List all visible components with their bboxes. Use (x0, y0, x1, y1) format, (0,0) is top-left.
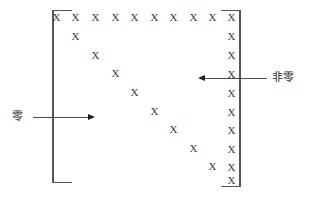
matrix-cell-marker: X (188, 143, 199, 154)
matrix-cell-marker: X (90, 12, 101, 23)
matrix-cell-marker: X (168, 12, 179, 23)
matrix-cell-marker: X (110, 12, 121, 23)
matrix-cell-marker: X (168, 124, 179, 135)
matrix-cell-marker: X (149, 12, 160, 23)
matrix-cell-marker: X (70, 12, 81, 23)
nonzero-arrow-line (205, 78, 267, 79)
nonzero-arrow-head-icon (198, 75, 205, 81)
matrix-cell-marker: X (207, 161, 218, 172)
matrix-cell-marker: X (110, 68, 121, 79)
matrix-cell-marker: X (70, 31, 81, 42)
matrix-cell-marker: X (226, 88, 237, 99)
matrix-cell-marker: X (129, 87, 140, 98)
matrix-cell-marker: X (226, 12, 237, 23)
zero-arrow-head-icon (88, 114, 95, 120)
matrix-cell-marker: X (226, 144, 237, 155)
zero-label: 零 (12, 111, 23, 123)
matrix-cell-marker: X (226, 50, 237, 61)
nonzero-label: 非零 (272, 72, 294, 84)
matrix-cell-marker: X (226, 31, 237, 42)
matrix-left-bracket (52, 10, 72, 183)
matrix-cell-marker: X (51, 12, 62, 23)
matrix-cell-marker: X (226, 175, 237, 186)
matrix-cell-marker: X (226, 107, 237, 118)
matrix-cell-marker: X (149, 106, 160, 117)
matrix-cell-marker: X (207, 12, 218, 23)
matrix-cell-marker: X (129, 12, 140, 23)
matrix-cell-marker: X (90, 50, 101, 61)
matrix-diagram: XXXXXXXXXXXXXXXXXXXXXXXXXXX 零 非零 (0, 0, 310, 202)
matrix-cell-marker: X (226, 125, 237, 136)
zero-arrow-line (33, 117, 88, 118)
matrix-cell-marker: X (226, 162, 237, 173)
matrix-cell-marker: X (188, 12, 199, 23)
